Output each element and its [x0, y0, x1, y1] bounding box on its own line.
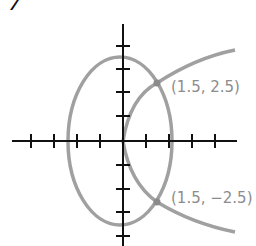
- lower-intersection-label: (1.5, −2.5): [171, 189, 253, 207]
- upper-intersection-label: (1.5, 2.5): [171, 78, 240, 96]
- intersection-point-lower: [154, 199, 161, 206]
- chart-canvas: 7 (1.: [0, 0, 256, 246]
- figure-number: 7: [8, 0, 27, 17]
- intersection-point-upper: [154, 80, 161, 87]
